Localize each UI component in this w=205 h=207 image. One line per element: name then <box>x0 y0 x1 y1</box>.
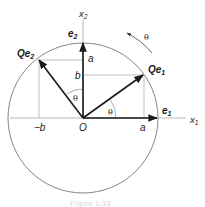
b-x2-label: b <box>75 70 81 81</box>
x2-axis-label: x2 <box>78 8 88 20</box>
a-x1-label: a <box>140 122 146 133</box>
rotation-diagram: x2 x1 O e2 e1 Qe1 Qe2 a b −b a θ θ θ Fig… <box>0 0 205 207</box>
x1-axis-label: x1 <box>189 114 199 126</box>
neg-b-x1-label: −b <box>34 122 46 133</box>
figure-caption: Figure 1.33 <box>70 199 111 207</box>
vector-qe2 <box>39 60 83 118</box>
qe1-label: Qe1 <box>148 64 165 76</box>
theta-label-rotation: θ <box>144 33 149 42</box>
origin-label: O <box>79 122 87 133</box>
theta-label-e1-qe1: θ <box>108 108 113 117</box>
a-x2-label: a <box>88 53 94 64</box>
e2-label: e2 <box>68 28 78 40</box>
e1-label: e1 <box>162 105 172 117</box>
theta-label-e2-qe2: θ <box>73 94 78 103</box>
vector-qe1 <box>83 75 143 118</box>
qe2-label: Qe2 <box>17 48 34 60</box>
diagram-canvas: x2 x1 O e2 e1 Qe1 Qe2 a b −b a θ θ θ Fig… <box>0 0 205 207</box>
